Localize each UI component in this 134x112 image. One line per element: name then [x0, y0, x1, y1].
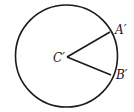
- radius-c-to-b: [67, 57, 111, 75]
- label-center-c: C′: [53, 51, 65, 65]
- circle-diagram: C′ A′ B′: [0, 0, 134, 112]
- radius-c-to-a: [67, 32, 110, 57]
- label-point-a: A′: [114, 23, 127, 37]
- circle: [16, 5, 118, 107]
- label-point-b: B′: [115, 68, 128, 82]
